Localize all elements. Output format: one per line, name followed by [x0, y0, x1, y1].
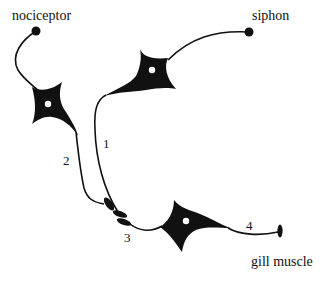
gill-muscle-terminal	[277, 225, 282, 238]
synapse-presynaptic-terminal	[112, 209, 128, 220]
motor-neuron-soma	[160, 200, 230, 252]
circuit-svg: nociceptor siphon gill muscle 1 2 3 4	[0, 0, 323, 287]
label-gill-muscle: gill muscle	[251, 254, 313, 269]
pathway-number-2: 2	[63, 153, 70, 168]
nociceptor-neuron-soma	[32, 82, 78, 136]
nociceptor-dendrite	[15, 31, 40, 92]
siphon-neuron-nucleus	[149, 67, 155, 73]
siphon-dendrite	[168, 32, 249, 60]
motor-neuron-dendrite	[130, 224, 162, 230]
label-siphon: siphon	[252, 8, 289, 23]
pathway-number-4: 4	[246, 218, 253, 233]
motor-neuron-nucleus	[183, 218, 189, 224]
axon-4	[228, 228, 278, 234]
nociceptor-neuron-nucleus	[45, 101, 51, 107]
axon-1	[95, 95, 118, 212]
pathway-number-3: 3	[124, 230, 131, 245]
aplysia-neural-circuit-diagram: nociceptor siphon gill muscle 1 2 3 4	[0, 0, 323, 287]
pathway-number-1: 1	[103, 136, 110, 151]
synapse-postsynaptic-terminal	[116, 217, 132, 228]
label-nociceptor: nociceptor	[12, 8, 71, 23]
siphon-neuron-soma	[104, 49, 176, 96]
